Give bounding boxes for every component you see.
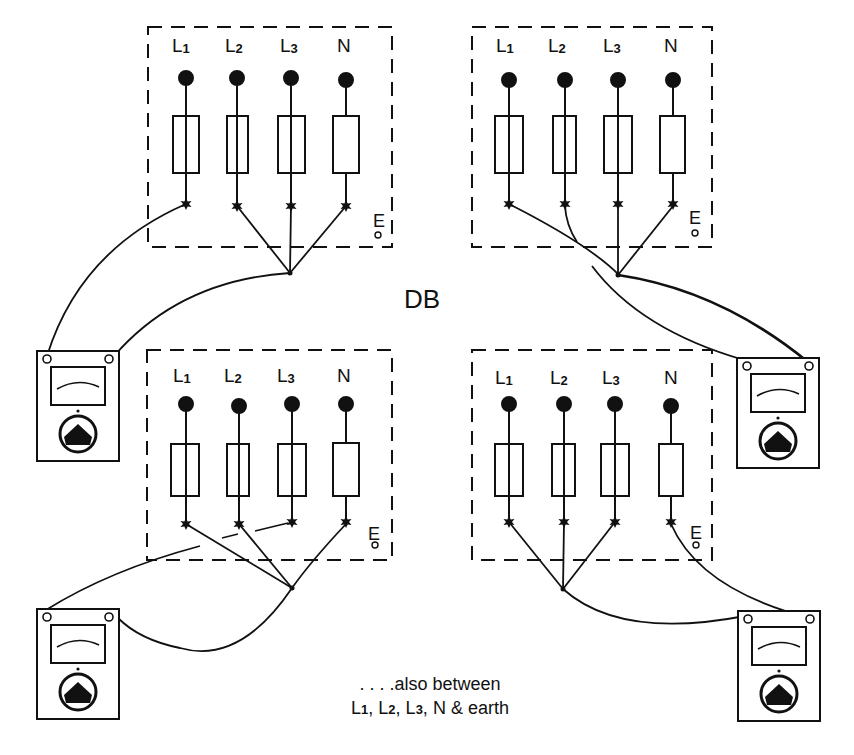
terminal-label-n: N [337,365,351,386]
note-line-1: . . . .also between [330,672,530,696]
earth-terminal-icon [375,232,381,238]
db-label: DB [404,284,440,314]
terminal-label-n: N [664,367,678,388]
terminal-label-l1: L1 [495,367,513,388]
earth-label: E [690,523,702,543]
terminal-label-n: N [664,35,678,56]
terminal-label-l1: L1 [172,35,190,56]
terminal-label-l1: L1 [173,365,191,386]
terminal-label-l2: L2 [548,35,566,56]
terminal-label-l3: L3 [603,35,621,56]
panel-top-left: L1 L2 L3 N E [47,27,392,356]
diagram-canvas: L1 L2 L3 N E L1 L2 L3 N [0,0,854,755]
earth-label: E [368,524,380,544]
terminal-label-l2: L2 [225,35,243,56]
insulation-test-diagram: L1 L2 L3 N E L1 L2 L3 N [0,0,854,755]
earth-label: E [689,208,701,228]
earth-label: E [373,211,385,231]
insulation-tester-icon [738,611,820,721]
note: . . . .also between L1, L2, L3, N & eart… [330,672,530,722]
terminal-label-l3: L3 [280,35,298,56]
note-line-2: L1, L2, L3, N & earth [330,696,530,722]
insulation-tester-icon [37,609,119,719]
terminal-label-l2: L2 [224,365,242,386]
insulation-tester-icon [37,351,119,461]
terminal-label-l3: L3 [277,365,295,386]
terminal-label-l2: L2 [550,367,568,388]
insulation-tester-icon [737,358,819,468]
terminal-label-n: N [337,35,351,56]
terminal-label-l3: L3 [602,367,620,388]
panel-top-right: L1 L2 L3 N E [472,27,808,362]
terminal-label-l1: L1 [496,35,514,56]
